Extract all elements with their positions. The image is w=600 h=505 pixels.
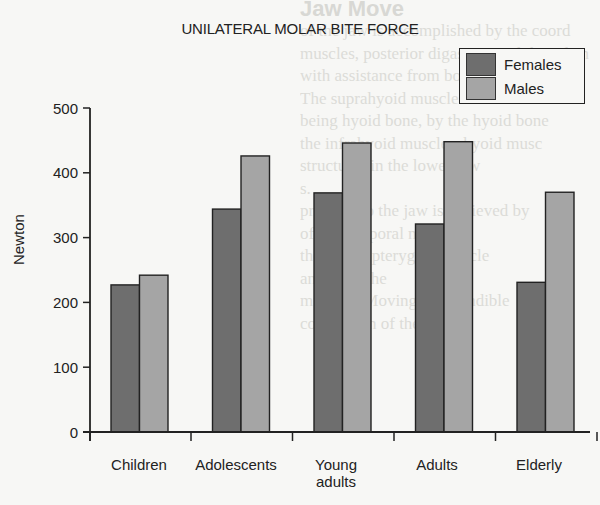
bar-males-young-adults <box>343 143 372 432</box>
bar-males-adolescents <box>241 156 270 432</box>
y-tick-500: 500 <box>38 100 78 117</box>
bar-males-elderly <box>546 192 575 432</box>
legend-swatch-females <box>466 53 496 76</box>
chart-legend: Females Males <box>459 48 585 104</box>
y-tick-300: 300 <box>38 229 78 246</box>
bar-males-children <box>140 275 169 432</box>
x-label-young-adults: Youngadults <box>286 456 386 490</box>
y-tick-0: 0 <box>38 424 78 441</box>
bar-females-young-adults <box>314 193 343 432</box>
x-label-adolescents: Adolescents <box>186 456 286 473</box>
bar-females-children <box>111 285 140 432</box>
y-tick-200: 200 <box>38 294 78 311</box>
x-label-adults: Adults <box>387 456 487 473</box>
bar-females-elderly <box>517 282 546 432</box>
bar-females-adults <box>416 224 445 432</box>
legend-swatch-males <box>466 77 496 100</box>
y-tick-100: 100 <box>38 359 78 376</box>
y-tick-400: 400 <box>38 164 78 181</box>
x-label-children: Children <box>89 456 189 473</box>
x-label-elderly: Elderly <box>489 456 589 473</box>
legend-item-males: Males <box>466 77 544 100</box>
bar-males-adults <box>444 142 473 432</box>
y-axis-label: Newton <box>10 214 27 265</box>
legend-item-females: Females <box>466 53 562 76</box>
bar-females-adolescents <box>213 209 242 432</box>
